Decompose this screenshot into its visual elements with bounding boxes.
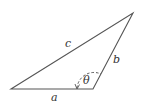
angle-theta-label: θ bbox=[83, 74, 90, 87]
triangle-outline bbox=[11, 13, 133, 89]
side-a-label: a bbox=[51, 91, 58, 104]
triangle-diagram: c b a θ bbox=[0, 0, 142, 108]
triangle-figure: c b a θ bbox=[0, 0, 142, 108]
side-c-label: c bbox=[65, 37, 71, 50]
side-b-label: b bbox=[113, 53, 120, 66]
